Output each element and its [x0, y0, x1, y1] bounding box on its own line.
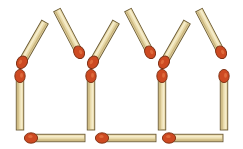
matchstick-puzzle-canvas — [0, 0, 243, 149]
matchstick-head-gloss — [20, 73, 23, 78]
matchstick-shadow — [101, 139, 155, 141]
matchstick-shadow — [17, 75, 19, 129]
matchstick-head-gloss — [166, 135, 171, 138]
matchstick-head — [157, 69, 167, 82]
matchstick-head — [15, 69, 25, 82]
matchstick-scene — [0, 0, 243, 149]
matchstick-head-gloss — [162, 73, 165, 78]
matchstick — [15, 69, 25, 130]
matchstick-head-gloss — [91, 73, 94, 78]
matchstick-shadow — [168, 139, 222, 141]
matchstick-shadow — [221, 75, 223, 129]
matchstick — [157, 69, 167, 130]
matchstick-highlight — [20, 75, 22, 129]
matchstick-head — [24, 133, 37, 143]
matchstick-highlight — [30, 136, 84, 138]
matchstick-head — [219, 69, 229, 82]
matchstick — [24, 133, 85, 143]
matchstick-highlight — [162, 75, 164, 129]
matchstick-head-gloss — [28, 135, 33, 138]
matchstick-head-gloss — [224, 73, 227, 78]
matchstick-head — [86, 69, 96, 82]
matchstick-shadow — [30, 139, 84, 141]
matchstick — [95, 133, 156, 143]
matchstick-head-gloss — [99, 135, 104, 138]
matchstick-head — [162, 133, 175, 143]
matchstick — [162, 133, 223, 143]
matchstick — [86, 69, 96, 130]
matchstick-shadow — [159, 75, 161, 129]
matchstick-head — [95, 133, 108, 143]
matchstick-shadow — [88, 75, 90, 129]
matchstick — [219, 69, 229, 130]
matchstick-highlight — [101, 136, 155, 138]
matchstick-highlight — [168, 136, 222, 138]
matchstick-highlight — [224, 75, 226, 129]
matchstick-highlight — [91, 75, 93, 129]
